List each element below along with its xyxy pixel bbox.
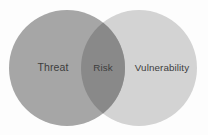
- venn-diagram-figure: Threat Risk Vulnerability: [0, 0, 208, 135]
- venn-diagram-canvas: Threat Risk Vulnerability: [0, 0, 208, 135]
- venn-label-risk: Risk: [93, 62, 112, 73]
- venn-label-threat: Threat: [38, 61, 69, 73]
- venn-label-vulnerability: Vulnerability: [135, 62, 189, 73]
